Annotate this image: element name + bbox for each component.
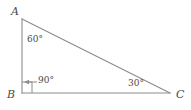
geometry-figure: A B C 60° 90° 30°: [0, 0, 191, 110]
vertex-label-b: B: [7, 89, 15, 100]
triangle-drawing: [0, 0, 191, 110]
vertex-label-c: C: [176, 89, 184, 100]
angle-label-at-c: 30°: [128, 79, 144, 88]
arrow-head-icon: [24, 80, 29, 84]
vertex-label-a: A: [11, 6, 19, 17]
angle-label-at-b: 90°: [38, 76, 54, 85]
right-angle-square-marker: [22, 82, 32, 93]
angle-label-at-a: 60°: [27, 35, 43, 44]
